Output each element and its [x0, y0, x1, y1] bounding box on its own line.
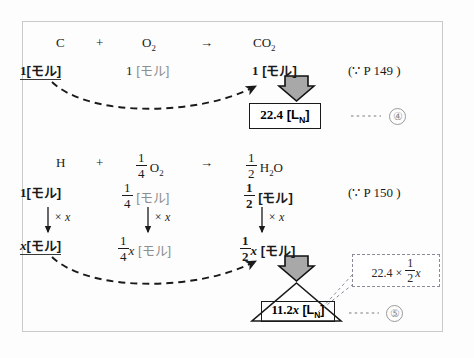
eq2-product: 1 2 H2O: [246, 151, 283, 180]
eq2-result-box: 11.2x [LN]: [261, 301, 335, 322]
eq1-mol-c-value: 1: [252, 63, 259, 78]
eq1-reactant-b-formula: O: [142, 35, 151, 50]
eq2-coefficient-c-fraction: 1 2: [246, 151, 257, 180]
eq2-mol-c: 1 2 [モル]: [244, 181, 293, 210]
eq2-scaled-a-unit: [モル]: [27, 238, 62, 253]
eq1-mol-c: 1 [モル]: [252, 64, 297, 77]
eq2-mol-a: 1[モル]: [20, 186, 61, 199]
eq1-step-marker: ④: [389, 108, 406, 125]
eq1-page-reference: (∵ P 149 ): [348, 64, 401, 77]
eq1-reaction-arrow: →: [200, 36, 213, 49]
eq2-result-unit: [LN]: [302, 303, 324, 317]
eq2-mol-c-denominator: 2: [244, 197, 255, 210]
eq2-callout-box: 22.4 × 1 2 x: [352, 254, 440, 287]
eq2-callout-numerator: 1: [405, 257, 415, 269]
eq2-product-formula: H: [260, 160, 269, 175]
eq2-coefficient-b-numerator: 1: [136, 151, 147, 164]
eq1-result-text: 22.4 [LN]: [260, 107, 309, 125]
eq2-mol-c-fraction: 1 2: [244, 181, 255, 210]
eq1-result-value: 22.4: [260, 107, 283, 122]
eq2-result-text: 11.2x [LN]: [271, 303, 324, 320]
eq2-mol-b-denominator: 4: [122, 197, 133, 210]
eq1-reactant-a: C: [56, 36, 65, 49]
eq2-reactant-a: H: [56, 156, 65, 169]
eq1-reactant-b: O2: [142, 36, 156, 52]
eq2-scaled-b-denominator: 4: [118, 250, 129, 263]
eq2-callout-text: 22.4 × 1 2 x: [371, 257, 420, 284]
eq1-mol-a: 1[モル]: [20, 64, 61, 77]
eq2-scaled-b-numerator: 1: [118, 234, 129, 247]
eq2-multiplier-label-a: × x: [54, 211, 70, 223]
eq2-mol-b-numerator: 1: [122, 181, 133, 194]
eq1-mol-a-unit: [モル]: [27, 63, 62, 78]
eq2-mol-c-unit: [モル]: [258, 190, 293, 205]
eq2-page-reference: (∵ P 150 ): [348, 186, 401, 199]
eq2-product-tail: O: [274, 160, 283, 175]
eq2-reaction-arrow: →: [200, 156, 213, 169]
eq2-scaled-b: 1 4 x [モル]: [118, 234, 171, 263]
eq2-mol-b-unit: [モル]: [136, 190, 169, 205]
eq2-scaled-a: x[モル]: [20, 239, 61, 252]
eq1-result-unit-close: ]: [305, 107, 309, 122]
eq2-scaled-c-denominator: 2: [240, 250, 251, 263]
diagram-canvas: C + O2 → CO2 1[モル] 1 [モル] 1 [モル] (∵ P 14…: [0, 0, 474, 358]
diagram-vector-overlay: [0, 0, 474, 358]
eq2-mol-c-numerator: 1: [244, 181, 255, 194]
eq1-reactant-b-subscript: 2: [151, 43, 155, 53]
eq1-result-unit-open: [L: [287, 107, 299, 122]
eq2-multiplier-label-b: × x: [154, 211, 170, 223]
eq2-plus-sign: +: [96, 156, 103, 169]
eq2-reactant-b-subscript: 2: [159, 168, 163, 178]
eq1-mol-b-unit: [モル]: [136, 63, 169, 78]
eq2-callout-fraction: 1 2: [405, 257, 415, 284]
eq2-mol-b-fraction: 1 4: [122, 181, 133, 210]
eq2-mol-a-unit: [モル]: [27, 185, 62, 200]
eq2-scaled-a-underlined: x[モル]: [20, 238, 61, 255]
eq1-mol-a-underlined: 1[モル]: [20, 63, 61, 80]
eq2-result-value: 11.2: [271, 303, 292, 317]
eq2-coefficient-b-fraction: 1 4: [136, 151, 147, 180]
eq2-coefficient-b-denominator: 4: [136, 167, 147, 180]
eq2-scaled-b-variable: x: [129, 243, 135, 258]
eq1-mol-b: 1 [モル]: [126, 64, 169, 77]
eq1-mol-c-unit: [モル]: [262, 63, 297, 78]
eq2-mol-b: 1 4 [モル]: [122, 181, 169, 210]
eq1-product-subscript: 2: [271, 43, 275, 53]
eq2-scaled-c-variable: x: [251, 243, 258, 258]
dashed-link-arrow-eq1: [52, 82, 256, 109]
fat-down-arrow-eq1: [279, 76, 314, 101]
eq2-step-marker: ⑤: [386, 305, 403, 322]
eq1-result-unit: [LN]: [287, 107, 310, 122]
eq2-scaled-c-numerator: 1: [240, 234, 251, 247]
eq1-plus-sign: +: [96, 36, 103, 49]
eq2-multiplier-label-c: × x: [268, 211, 284, 223]
eq2-result-variable: x: [293, 303, 299, 317]
eq1-mol-b-value: 1: [126, 63, 133, 78]
eq2-callout-lead: 22.4 ×: [371, 266, 402, 280]
eq2-coefficient-c-numerator: 1: [246, 151, 257, 164]
eq2-scaled-c-unit: [モル]: [261, 243, 296, 258]
eq2-reactant-b-formula: O: [150, 160, 159, 175]
eq2-scaled-b-unit: [モル]: [138, 243, 171, 258]
eq2-result-unit-open: [L: [302, 303, 314, 317]
eq1-product-formula: CO: [253, 35, 271, 50]
eq2-reactant-b: 1 4 O2: [136, 151, 164, 180]
eq1-result-box: 22.4 [LN]: [249, 103, 321, 129]
eq2-result-unit-close: ]: [320, 303, 324, 317]
eq2-scaled-c-fraction: 1 2: [240, 234, 251, 263]
eq1-product: CO2: [253, 36, 275, 52]
eq2-coefficient-c-denominator: 2: [246, 167, 257, 180]
eq2-callout-denominator: 2: [405, 272, 415, 284]
eq2-callout-variable: x: [415, 266, 420, 280]
eq2-scaled-c: 1 2 x [モル]: [240, 234, 295, 263]
eq2-scaled-b-fraction: 1 4: [118, 234, 129, 263]
